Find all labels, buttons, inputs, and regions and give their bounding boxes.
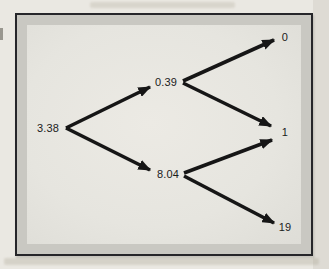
tree-leaf-middle: 1 — [282, 127, 288, 138]
figure-background — [27, 25, 301, 244]
page-gutter-shading — [313, 0, 329, 269]
bleed-through-artifact — [4, 258, 319, 265]
tree-node-down: 8.04 — [157, 169, 179, 180]
figure-frame — [15, 13, 313, 256]
tree-node-up: 0.39 — [155, 77, 177, 88]
tree-leaf-top: 0 — [282, 32, 288, 43]
tree-node-root: 3.38 — [37, 123, 59, 134]
bleed-through-artifact — [90, 2, 235, 8]
tree-leaf-bottom: 19 — [279, 222, 292, 233]
scanned-page: 3.38 0.39 8.04 0 1 19 — [0, 0, 329, 269]
scan-edge-artifact — [0, 28, 3, 40]
